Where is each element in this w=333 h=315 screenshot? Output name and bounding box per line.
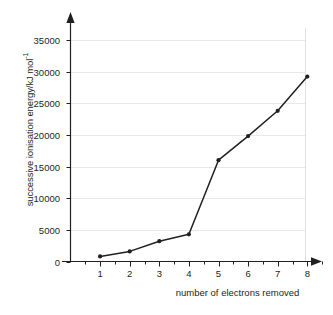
x-axis-tick-label: 5 xyxy=(209,268,229,279)
gridlines xyxy=(71,41,306,231)
y-axis-arrowhead xyxy=(66,12,74,23)
data-point xyxy=(246,134,250,138)
x-axis-tick-label: 7 xyxy=(268,268,288,279)
x-axis-tick-label: 3 xyxy=(149,268,169,279)
data-point xyxy=(98,254,102,258)
x-axis-arrowhead xyxy=(311,257,322,266)
x-axis-tick-labels: 12345678 xyxy=(0,268,333,284)
x-axis-title: number of electrons removed xyxy=(150,287,325,298)
x-axis-tick-label: 2 xyxy=(120,268,140,279)
x-axis-tick-label: 8 xyxy=(297,268,317,279)
x-axis-tick-label: 6 xyxy=(238,268,258,279)
data-point xyxy=(128,249,132,253)
x-axis-tick-label: 4 xyxy=(179,268,199,279)
data-point xyxy=(157,239,161,243)
data-point xyxy=(305,75,309,79)
x-axis-tick-label: 1 xyxy=(90,268,110,279)
ionisation-energy-chart: successive ionisation energy/kJ mol-1 05… xyxy=(0,0,333,315)
data-point xyxy=(216,158,220,162)
data-point xyxy=(187,232,191,236)
data-point xyxy=(276,109,280,113)
